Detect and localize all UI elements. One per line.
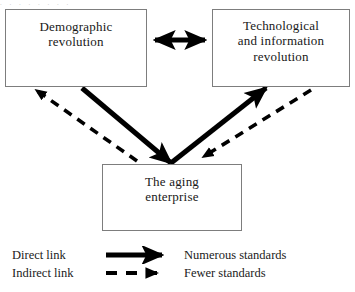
dashed-arrow-icon <box>105 264 175 282</box>
legend-direct-term: Direct link <box>12 246 66 264</box>
legend-indirect-description: Fewer standards <box>184 264 266 282</box>
legend-direct-description: Numerous standards <box>184 246 286 264</box>
legend-row-direct: Direct link Numerous standards <box>12 246 342 264</box>
legend: Direct link Numerous standards Indirect … <box>12 246 342 282</box>
diagram-canvas: . . . . . . . . Demographic revolution T <box>0 0 355 292</box>
edge-aging-to-demographic <box>36 90 137 161</box>
edge-demographic-to-aging <box>82 88 171 163</box>
node-demographic-revolution[interactable]: Demographic revolution <box>5 9 147 87</box>
legend-row-indirect: Indirect link Fewer standards <box>12 264 342 282</box>
node-aging-enterprise[interactable]: The aging enterprise <box>102 164 242 231</box>
legend-indirect-term: Indirect link <box>12 264 73 282</box>
solid-arrow-icon <box>105 246 175 264</box>
node-aging-label: The aging enterprise <box>145 165 199 205</box>
node-demographic-label: Demographic revolution <box>40 10 113 50</box>
node-technological-label: Technological and information revolution <box>238 10 324 64</box>
node-technological-revolution[interactable]: Technological and information revolution <box>212 9 350 87</box>
